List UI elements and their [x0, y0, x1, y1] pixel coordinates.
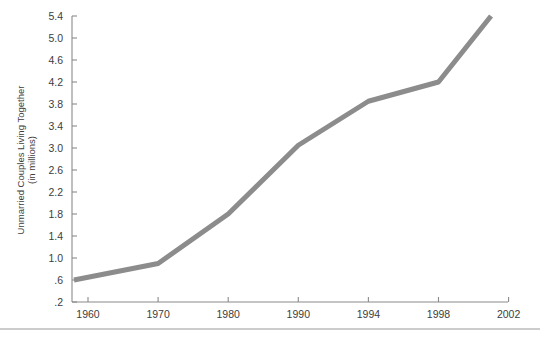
y-axis-title-line2: (in millions): [26, 136, 37, 184]
x-tick-label: 1994: [357, 308, 381, 320]
x-tick-label: 1980: [217, 308, 241, 320]
line-chart: .2.61.01.41.82.22.63.03.43.84.24.65.05.4…: [0, 0, 540, 341]
y-tick-label: 3.0: [48, 142, 63, 154]
x-tick-label: 1970: [146, 308, 170, 320]
y-tick-label: 5.4: [48, 10, 63, 22]
y-tick-label: .6: [54, 274, 63, 286]
y-tick-label: 1.0: [48, 252, 63, 264]
x-tick-label: 2002: [497, 308, 521, 320]
y-tick-label: 1.4: [48, 230, 63, 242]
x-tick-label: 1960: [76, 308, 100, 320]
x-tick-label: 1990: [287, 308, 311, 320]
y-tick-label: .2: [54, 296, 63, 308]
y-tick-label: 2.6: [48, 164, 63, 176]
y-tick-label: 4.6: [48, 54, 63, 66]
y-axis-title-line1: Unmarried Couples Living Together: [15, 86, 26, 235]
y-tick-label: 3.8: [48, 98, 63, 110]
y-tick-label: 1.8: [48, 208, 63, 220]
y-tick-label: 2.2: [48, 186, 63, 198]
chart-canvas: .2.61.01.41.82.22.63.03.43.84.24.65.05.4…: [0, 0, 540, 341]
y-tick-label: 3.4: [48, 120, 63, 132]
y-tick-label: 5.0: [48, 32, 63, 44]
x-tick-label: 1998: [427, 308, 451, 320]
y-tick-label: 4.2: [48, 76, 63, 88]
